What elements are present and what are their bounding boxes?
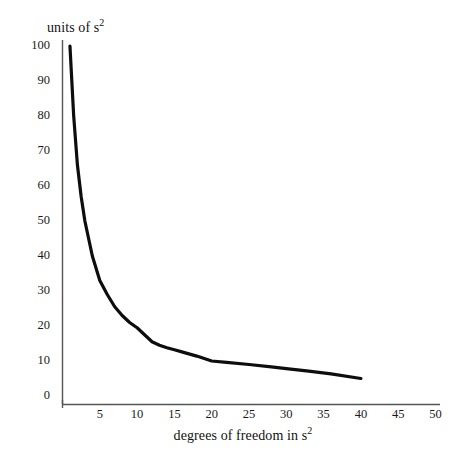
plot-area [0, 0, 456, 463]
chart-figure: units of s2 degrees of freedom in s2 010… [0, 0, 456, 463]
data-series-line [70, 46, 361, 379]
